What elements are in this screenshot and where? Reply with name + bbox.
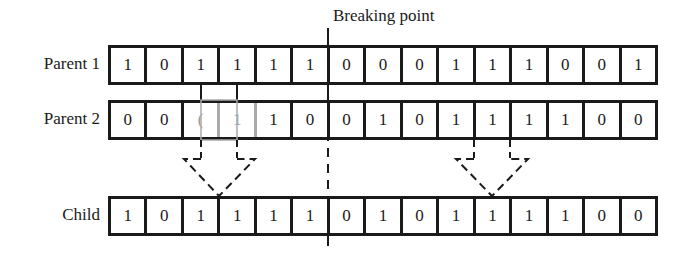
arrow-right-icon <box>456 140 528 196</box>
diagram-overlay <box>0 0 690 253</box>
arrow-left-icon <box>184 85 255 196</box>
